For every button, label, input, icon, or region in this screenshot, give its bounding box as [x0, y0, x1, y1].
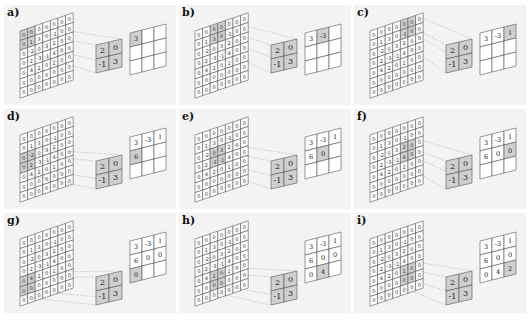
- output-cell: [329, 260, 341, 277]
- input-value: -1: [402, 31, 407, 37]
- kernel-value: -1: [99, 176, 107, 185]
- input-value: 0: [243, 130, 246, 136]
- output-cell: [492, 159, 504, 176]
- input-value: 0: [68, 16, 71, 22]
- input-value: 3: [387, 244, 390, 250]
- input-value: 0: [212, 234, 215, 240]
- input-value: 0: [418, 262, 421, 268]
- input-value: 0: [60, 275, 63, 281]
- input-value: 0: [30, 133, 33, 139]
- kernel-value: -1: [274, 176, 282, 185]
- input-value: 0: [228, 69, 231, 75]
- kernel-value: 2: [100, 46, 105, 55]
- input-value: 0: [22, 288, 25, 294]
- input-value: 0: [37, 26, 40, 32]
- input-value: 3: [395, 147, 398, 153]
- output-cell: [480, 58, 492, 75]
- input-value: 0: [220, 232, 223, 238]
- output-value: 6: [134, 153, 138, 161]
- output-grid: 3-31600042: [480, 232, 516, 283]
- kernel-value: 0: [113, 159, 118, 168]
- input-value: 0: [60, 255, 63, 261]
- input-value: 0: [387, 188, 390, 194]
- input-value: 0: [395, 62, 398, 68]
- input-value: -1: [52, 135, 57, 141]
- input-value: 0: [387, 178, 390, 184]
- input-value: -1: [52, 239, 57, 245]
- input-value: -2: [379, 48, 384, 54]
- input-value: 0: [410, 38, 413, 44]
- input-value: 0: [418, 139, 421, 145]
- output-value: 1: [158, 237, 162, 245]
- output-value: -3: [495, 240, 501, 248]
- input-value: 3: [45, 251, 48, 257]
- input-value: 0: [372, 32, 375, 38]
- output-value: 6: [134, 257, 138, 265]
- input-value: 0: [372, 164, 375, 170]
- input-value: 1: [205, 39, 208, 45]
- input-value: 0: [395, 280, 398, 286]
- input-value: -1: [219, 261, 224, 267]
- input-value: 0: [372, 80, 375, 86]
- input-value: 0: [410, 180, 413, 186]
- kernel-value: 0: [113, 275, 118, 284]
- input-value: 1: [228, 268, 231, 274]
- input-value: 0: [380, 29, 383, 35]
- input-value: 0: [212, 282, 215, 288]
- input-value: 0: [235, 255, 238, 261]
- input-value: 0: [68, 130, 71, 136]
- input-value: 0: [395, 33, 398, 39]
- input-value: 0: [410, 67, 413, 73]
- output-grid: 3-31: [480, 24, 516, 75]
- output-cell: [317, 159, 329, 176]
- input-value: 0: [205, 133, 208, 139]
- input-value: 0: [235, 123, 238, 129]
- input-value: 0: [372, 249, 375, 255]
- input-value: 0: [60, 57, 63, 63]
- input-value: 0: [45, 270, 48, 276]
- input-value: 3: [37, 140, 40, 146]
- output-value: 1: [508, 237, 512, 245]
- input-value: 0: [395, 72, 398, 78]
- input-value: 0: [380, 87, 383, 93]
- input-value: 0: [45, 62, 48, 68]
- output-value: 1: [333, 133, 337, 141]
- input-value: 4: [53, 258, 56, 264]
- output-grid: 3-3160: [305, 128, 341, 179]
- input-value: 0: [60, 67, 63, 73]
- input-grid: 00000000130-1000-20320002-3-140004201000…: [20, 117, 73, 202]
- input-value: 1: [228, 164, 231, 170]
- kernel-value: 2: [275, 278, 280, 287]
- input-value: 3: [395, 251, 398, 257]
- output-value: 3: [484, 243, 488, 251]
- input-value: 0: [220, 128, 223, 134]
- input-value: 0: [418, 243, 421, 249]
- input-value: 2: [380, 162, 383, 168]
- input-value: 0: [228, 79, 231, 85]
- output-cell: [142, 159, 154, 176]
- input-value: 0: [60, 265, 63, 271]
- input-value: 0: [372, 51, 375, 57]
- output-value: 3: [134, 243, 138, 251]
- input-value: 1: [30, 143, 33, 149]
- input-value: 0: [205, 29, 208, 35]
- input-value: 0: [395, 241, 398, 247]
- input-value: 0: [37, 46, 40, 52]
- kernel-value: 0: [113, 43, 118, 52]
- output-value: 4: [321, 268, 325, 276]
- output-value: 4: [496, 268, 500, 276]
- input-value: 0: [235, 246, 238, 252]
- input-value: 1: [228, 60, 231, 66]
- input-value: 1: [53, 60, 56, 66]
- input-value: 0: [197, 184, 200, 190]
- input-value: 0: [205, 295, 208, 301]
- input-value: -2: [29, 256, 34, 262]
- kernel-value: 3: [288, 289, 293, 298]
- input-value: 0: [22, 249, 25, 255]
- input-value: 0: [53, 173, 56, 179]
- input-value: 0: [220, 62, 223, 68]
- output-value: 0: [496, 150, 500, 158]
- input-value: 0: [243, 120, 246, 126]
- input-value: 0: [395, 176, 398, 182]
- input-value: 0: [220, 241, 223, 247]
